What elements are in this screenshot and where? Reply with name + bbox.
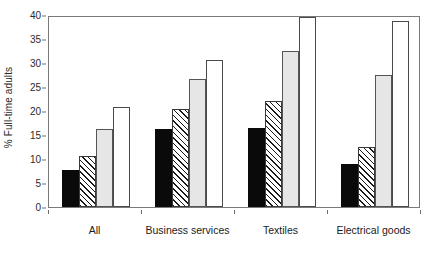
x-category-label: Business services	[145, 224, 229, 236]
bar	[392, 21, 409, 207]
bar	[341, 164, 358, 207]
bar	[62, 170, 79, 207]
bar	[265, 101, 282, 207]
y-tick-mark	[42, 88, 46, 89]
plot-area	[48, 16, 420, 208]
x-tick-mark	[234, 210, 235, 214]
x-tick-mark	[141, 210, 142, 214]
x-tick-mark	[420, 210, 421, 214]
y-tick-label: 10	[30, 155, 41, 165]
y-axis-ticks: 0510152025303540	[18, 16, 46, 208]
y-tick-mark	[42, 40, 46, 41]
bar-group	[328, 17, 421, 207]
x-category-label: All	[89, 224, 101, 236]
bar	[375, 75, 392, 207]
bar	[206, 60, 223, 207]
y-tick-label: 15	[30, 131, 41, 141]
x-axis-ticks: AllBusiness servicesTextilesElectrical g…	[48, 210, 420, 240]
bar	[172, 109, 189, 207]
bar	[299, 17, 316, 207]
y-tick-label: 0	[35, 203, 41, 213]
y-axis-title: % Full-time adults	[0, 0, 18, 215]
x-category-label: Electrical goods	[336, 224, 410, 236]
bar	[155, 129, 172, 207]
x-tick-mark	[327, 210, 328, 214]
bar	[189, 79, 206, 207]
y-tick-label: 25	[30, 83, 41, 93]
bar	[96, 129, 113, 207]
bars-layer	[49, 17, 419, 207]
y-tick-mark	[42, 64, 46, 65]
y-axis-title-text: % Full-time adults	[4, 67, 15, 148]
y-tick-mark	[42, 160, 46, 161]
y-tick-mark	[42, 112, 46, 113]
bar-chart: % Full-time adults 0510152025303540 AllB…	[0, 0, 438, 261]
bar-group	[49, 17, 142, 207]
bar	[248, 128, 265, 207]
y-tick-label: 40	[30, 11, 41, 21]
y-tick-mark	[42, 136, 46, 137]
y-tick-mark	[42, 16, 46, 17]
bar	[113, 107, 130, 207]
y-tick-label: 20	[30, 107, 41, 117]
bar	[358, 147, 375, 207]
y-tick-label: 35	[30, 35, 41, 45]
x-tick-mark	[48, 210, 49, 214]
x-category-label: Textiles	[263, 224, 298, 236]
bar-group	[142, 17, 235, 207]
y-tick-label: 30	[30, 59, 41, 69]
bar	[282, 51, 299, 207]
y-tick-mark	[42, 208, 46, 209]
y-tick-mark	[42, 184, 46, 185]
y-tick-label: 5	[35, 179, 41, 189]
bar	[79, 156, 96, 207]
bar-group	[235, 17, 328, 207]
